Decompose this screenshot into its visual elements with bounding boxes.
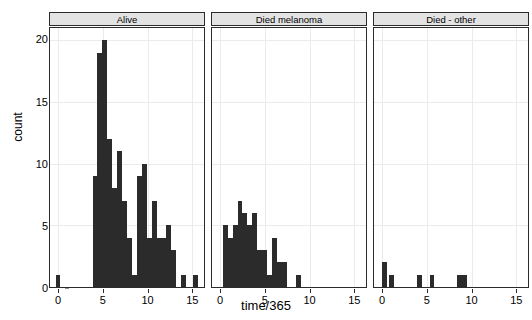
gridline-vertical xyxy=(310,28,311,287)
facet-strip-died-other: Died - other xyxy=(373,12,529,26)
x-tick-mark xyxy=(58,289,59,293)
histogram-bar xyxy=(389,275,394,287)
y-axis-ticks: 05101520 xyxy=(18,12,48,288)
facet-panel-died-melanoma: Died melanoma xyxy=(211,12,367,288)
x-axis: 051015 xyxy=(373,289,529,311)
gridline-vertical xyxy=(472,28,473,287)
y-tick-label: 15 xyxy=(36,96,48,108)
x-tick-label: 0 xyxy=(217,294,223,306)
gridline-horizontal xyxy=(374,102,528,103)
x-tick-mark xyxy=(192,289,193,293)
gridline-horizontal xyxy=(212,164,366,165)
x-tick-mark xyxy=(265,289,266,293)
gridline-vertical xyxy=(265,28,266,287)
gridline-horizontal xyxy=(374,287,528,288)
gridline-horizontal xyxy=(50,40,204,41)
y-tick-label: 5 xyxy=(42,220,48,232)
x-tick-label: 15 xyxy=(348,294,360,306)
x-tick-mark xyxy=(310,289,311,293)
x-axis: 051015 xyxy=(49,289,205,311)
x-tick-mark xyxy=(427,289,428,293)
gridline-vertical xyxy=(427,28,428,287)
facet-strip-label: Alive xyxy=(117,14,138,25)
gridline-horizontal xyxy=(374,225,528,226)
histogram-bar xyxy=(430,275,435,287)
gridline-horizontal xyxy=(212,40,366,41)
histogram-bar xyxy=(296,275,301,287)
x-tick-label: 10 xyxy=(141,294,153,306)
y-tick-label: 10 xyxy=(36,158,48,170)
histogram-bar xyxy=(462,275,467,287)
gridline-horizontal xyxy=(374,164,528,165)
histogram-bar xyxy=(171,250,176,287)
facet-panel-died-other: Died - other xyxy=(373,12,529,288)
x-tick-label: 5 xyxy=(262,294,268,306)
gridline-vertical xyxy=(354,28,355,287)
facet-strip-died-melanoma: Died melanoma xyxy=(211,12,367,26)
x-tick-label: 5 xyxy=(100,294,106,306)
x-tick-label: 15 xyxy=(186,294,198,306)
gridline-horizontal xyxy=(212,102,366,103)
facet-strip-label: Died melanoma xyxy=(256,14,323,25)
facet-strip-alive: Alive xyxy=(49,12,205,26)
x-tick-mark xyxy=(148,289,149,293)
facet-strip-label: Died - other xyxy=(426,14,476,25)
histogram-bar xyxy=(193,275,198,287)
histogram-bar xyxy=(417,275,422,287)
gridline-horizontal xyxy=(50,287,204,288)
gridline-vertical xyxy=(220,28,221,287)
gridline-vertical xyxy=(192,28,193,287)
histogram-bar xyxy=(181,275,186,287)
x-tick-mark xyxy=(103,289,104,293)
x-tick-label: 0 xyxy=(55,294,61,306)
gridline-vertical xyxy=(516,28,517,287)
plot-area-died-other xyxy=(373,27,529,288)
x-tick-label: 5 xyxy=(424,294,430,306)
x-tick-label: 0 xyxy=(379,294,385,306)
gridline-horizontal xyxy=(50,102,204,103)
plot-area-died-melanoma xyxy=(211,27,367,288)
clipped-title xyxy=(0,0,532,9)
y-tick-label: 20 xyxy=(36,33,48,45)
x-tick-mark xyxy=(472,289,473,293)
x-tick-mark xyxy=(382,289,383,293)
x-tick-label: 10 xyxy=(465,294,477,306)
x-tick-mark xyxy=(516,289,517,293)
x-tick-label: 15 xyxy=(510,294,522,306)
histogram-bar xyxy=(282,262,287,287)
gridline-horizontal xyxy=(50,225,204,226)
gridline-horizontal xyxy=(212,287,366,288)
y-tick-label: 0 xyxy=(42,282,48,294)
gridline-vertical xyxy=(58,28,59,287)
x-tick-mark xyxy=(354,289,355,293)
gridline-horizontal xyxy=(50,164,204,165)
plot-area-alive xyxy=(49,27,205,288)
x-axis: 051015 xyxy=(211,289,367,311)
chart-root: count time/365 05101520 Alive Died melan… xyxy=(0,0,532,320)
x-tick-mark xyxy=(220,289,221,293)
gridline-vertical xyxy=(382,28,383,287)
histogram-bar xyxy=(56,275,61,287)
facet-panel-alive: Alive xyxy=(49,12,205,288)
histogram-bar xyxy=(382,262,387,287)
x-tick-label: 10 xyxy=(303,294,315,306)
gridline-horizontal xyxy=(374,40,528,41)
